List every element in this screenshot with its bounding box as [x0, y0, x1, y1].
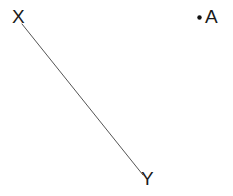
geometry-figure-canvas: X Y A: [0, 0, 233, 196]
point-label-a: A: [205, 7, 218, 26]
figure-drawing-surface: [0, 0, 233, 196]
point-label-x: X: [12, 7, 25, 26]
point-a-dot-marker: [197, 15, 201, 19]
point-label-y: Y: [141, 169, 154, 188]
line-segment-xy: [22, 24, 143, 175]
